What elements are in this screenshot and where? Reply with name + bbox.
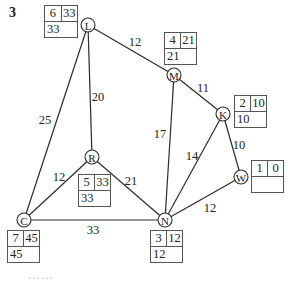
svg-text:N: N [161,215,169,227]
svg-text:R: R [88,152,96,164]
label-box-R: 5 33 33 [78,174,111,207]
node-L: L [81,18,95,32]
working-values [252,177,283,192]
final-label: 45 [23,231,39,246]
svg-text:L: L [85,20,92,32]
working-values: 10 [235,112,266,127]
order-of-labelling: 1 [252,161,267,176]
svg-text:C: C [20,215,27,227]
weight-L-R: 20 [92,90,105,104]
node-M: M [167,68,181,82]
working-values: 33 [45,22,77,37]
label-box-N: 3 12 12 [150,230,183,263]
order-of-labelling: 7 [8,231,23,246]
node-N: N [158,213,172,227]
label-box-W: 1 0 [251,160,284,193]
order-of-labelling: 6 [45,6,61,21]
svg-text:M: M [169,70,179,82]
final-label: 0 [267,161,283,176]
node-C: C [17,213,31,227]
svg-text:W: W [236,172,247,184]
final-label: 21 [180,33,196,48]
order-of-labelling: 3 [151,231,166,246]
node-W: W [234,170,248,184]
weight-L-C: 25 [39,113,52,127]
weight-L-M: 12 [129,35,142,49]
label-box-C: 7 45 45 [7,230,40,263]
weight-M-N: 17 [154,127,167,141]
node-K: K [216,107,230,121]
label-box-L: 6 33 33 [44,5,78,38]
clipped-caption-text: …… [28,268,54,283]
svg-text:K: K [219,109,227,121]
final-label: 33 [94,175,110,190]
weight-R-C: 12 [53,170,66,184]
weight-M-K: 11 [197,81,209,95]
working-values: 33 [79,191,110,206]
node-R: R [85,150,99,164]
label-box-M: 4 21 21 [164,32,197,65]
working-values: 21 [165,49,196,64]
working-values: 45 [8,247,39,262]
weight-K-N: 14 [186,149,199,163]
order-of-labelling: 5 [79,175,94,190]
weight-K-W: 10 [233,138,246,152]
weight-W-N: 12 [204,201,217,215]
label-box-K: 2 10 10 [234,95,267,128]
final-label: 12 [166,231,182,246]
final-label: 10 [250,96,266,111]
working-values: 12 [151,247,182,262]
weight-R-N: 21 [125,174,138,188]
edge-L-M [88,25,174,75]
final-label: 33 [61,6,78,21]
edge-M-N [165,75,174,220]
order-of-labelling: 4 [165,33,180,48]
order-of-labelling: 2 [235,96,250,111]
weight-C-N: 33 [87,223,100,237]
